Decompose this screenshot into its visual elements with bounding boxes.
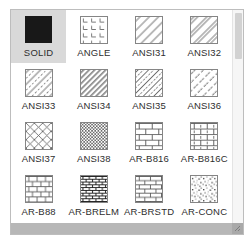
- pattern-item-ansi36[interactable]: ANSI36: [177, 63, 232, 116]
- ar-b88-pattern-icon: [25, 175, 53, 203]
- pattern-item-ar-b816c[interactable]: AR-B816C: [177, 117, 232, 170]
- ansi33-pattern-icon: [25, 69, 53, 97]
- pattern-item-ar-conc[interactable]: AR-CONC: [177, 170, 232, 223]
- solid-pattern-icon: [25, 16, 52, 43]
- pattern-item-ar-brstd[interactable]: AR-BRSTD: [122, 170, 177, 223]
- pattern-item-label: ANGLE: [77, 47, 110, 58]
- pattern-item-label: ANSI36: [187, 100, 221, 111]
- pattern-item-label: ANSI33: [22, 100, 56, 111]
- pattern-item-label: AR-B816C: [181, 153, 228, 164]
- ar-conc-pattern-icon: [190, 175, 218, 203]
- pattern-item-ar-brelm[interactable]: AR-BRELM: [66, 170, 121, 223]
- pattern-item-label: AR-BRELM: [69, 206, 120, 217]
- ansi37-pattern-icon: [25, 122, 53, 150]
- pattern-item-ansi33[interactable]: ANSI33: [11, 63, 66, 116]
- ar-b816c-pattern-icon: [190, 122, 218, 150]
- ar-brstd-pattern-icon: [135, 175, 163, 203]
- hatch-pattern-palette: SOLID ANGLE ANSI31 ANSI32 ANSI33 ANSI34 …: [10, 9, 244, 235]
- pattern-item-ar-b88[interactable]: AR-B88: [11, 170, 66, 223]
- ansi36-pattern-icon: [190, 69, 218, 97]
- pattern-grid: SOLID ANGLE ANSI31 ANSI32 ANSI33 ANSI34 …: [11, 10, 232, 223]
- pattern-item-label: ANSI37: [22, 153, 56, 164]
- pattern-item-label: ANSI38: [77, 153, 111, 164]
- vertical-scrollbar-thumb[interactable]: [235, 13, 242, 59]
- ar-b816-pattern-icon: [135, 122, 163, 150]
- resize-grip[interactable]: [232, 223, 243, 234]
- pattern-item-ansi38[interactable]: ANSI38: [66, 117, 121, 170]
- pattern-item-label: AR-B816: [129, 153, 169, 164]
- pattern-item-ansi32[interactable]: ANSI32: [177, 10, 232, 63]
- pattern-item-angle[interactable]: ANGLE: [66, 10, 121, 63]
- pattern-item-ansi34[interactable]: ANSI34: [66, 63, 121, 116]
- vertical-scrollbar[interactable]: [232, 10, 243, 223]
- ansi34-pattern-icon: [80, 69, 108, 97]
- pattern-item-label: ANSI34: [77, 100, 111, 111]
- horizontal-scrollbar-thumb[interactable]: [11, 223, 232, 234]
- pattern-item-ansi37[interactable]: ANSI37: [11, 117, 66, 170]
- pattern-item-ansi31[interactable]: ANSI31: [122, 10, 177, 63]
- pattern-item-label: AR-B88: [21, 206, 55, 217]
- ansi38-pattern-icon: [80, 122, 108, 150]
- horizontal-scrollbar[interactable]: [11, 223, 243, 234]
- ansi31-pattern-icon: [135, 16, 163, 44]
- pattern-item-label: SOLID: [24, 47, 54, 58]
- pattern-item-solid[interactable]: SOLID: [11, 10, 66, 63]
- angle-pattern-icon: [80, 16, 108, 44]
- pattern-item-label: ANSI32: [187, 47, 221, 58]
- pattern-item-label: ANSI35: [132, 100, 166, 111]
- pattern-item-label: AR-BRSTD: [124, 206, 174, 217]
- ansi32-pattern-icon: [190, 16, 218, 44]
- pattern-item-label: AR-CONC: [182, 206, 228, 217]
- pattern-item-ar-b816[interactable]: AR-B816: [122, 117, 177, 170]
- pattern-item-ansi35[interactable]: ANSI35: [122, 63, 177, 116]
- resize-grip-icon: [234, 225, 241, 232]
- ar-brelm-pattern-icon: [80, 175, 108, 203]
- pattern-item-label: ANSI31: [132, 47, 166, 58]
- ansi35-pattern-icon: [135, 69, 163, 97]
